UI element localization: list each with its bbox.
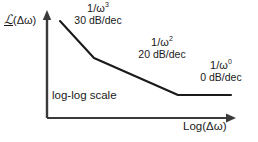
annotation-exponent-w3: 3	[105, 1, 109, 8]
annotation-slope-w3: 30 dB/dec	[62, 15, 134, 26]
y-axis-label-arg: (Δω)	[13, 14, 36, 26]
annotation-region-1-over-omega-2: 1/ω2 20 dB/dec	[126, 37, 198, 60]
annotation-exponent-w0: 0	[228, 58, 232, 65]
y-axis-arrowhead	[43, 10, 51, 20]
y-axis-label-symbol: ℒ	[4, 12, 13, 27]
phase-noise-figure: ℒ(Δω) Log(Δω) 1/ω3 30 dB/dec 1/ω2 20 dB/…	[0, 0, 258, 142]
annotation-exponent-w2: 2	[169, 35, 173, 42]
annotation-slope-w0: 0 dB/dec	[190, 72, 252, 83]
y-axis	[43, 10, 51, 118]
y-axis-label: ℒ(Δω)	[4, 13, 36, 27]
x-axis-arrowhead	[226, 114, 236, 123]
log-log-scale-note: log-log scale	[52, 89, 117, 101]
x-axis-label: Log(Δω)	[183, 120, 227, 132]
annotation-region-1-over-omega-3: 1/ω3 30 dB/dec	[62, 3, 134, 26]
annotation-slope-w2: 20 dB/dec	[126, 49, 198, 60]
annotation-region-1-over-omega-0: 1/ω0 0 dB/dec	[190, 60, 252, 83]
